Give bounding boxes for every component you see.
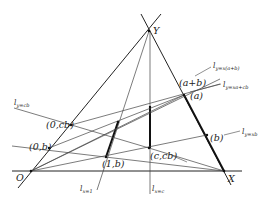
label-l-y-xacb: ly=xa+cb: [223, 80, 248, 91]
label-l-x-1: lx=1: [80, 184, 93, 194]
point-y: [148, 30, 151, 33]
label-a: (a): [190, 90, 203, 101]
point-xc-top: [149, 106, 151, 108]
label-l-y-cb: ly=cb: [14, 98, 29, 109]
label-0cb: (0,cb): [46, 119, 74, 130]
label-0b: (0,b): [29, 141, 52, 152]
label-apb: (a+b): [179, 77, 206, 88]
point-ccb: [148, 147, 150, 149]
point-x: [223, 170, 226, 173]
point-b: [206, 134, 208, 136]
point-a: [183, 94, 185, 96]
label-l-x-c: lx=c: [152, 184, 164, 194]
label-l-y-xab: ly=x(a+b): [213, 61, 240, 72]
label-o: O: [16, 172, 24, 183]
label-1b: (1,b): [102, 158, 125, 169]
label-b: (b): [210, 132, 224, 143]
point-x1-top: [117, 121, 119, 123]
label-y: Y: [153, 25, 161, 36]
leader-y-xb: [224, 131, 240, 135]
line-oy: [18, 14, 161, 188]
construction-diagram: Y O X (0,cb) (0,b) (1,b) (c,cb) (a+b) (a…: [0, 0, 273, 199]
label-l-y-xb: ly=xb: [242, 127, 257, 138]
label-ccb: (c,cb): [150, 150, 177, 161]
label-x: X: [227, 173, 236, 184]
leader-y-xab: [195, 67, 211, 76]
segment-x-1: [106, 122, 118, 157]
point-o: [30, 170, 33, 173]
